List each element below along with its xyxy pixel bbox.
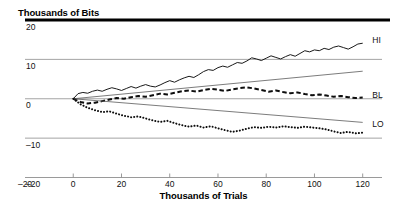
- y-tick-label-10: 10: [26, 61, 35, 71]
- x-tick-label-60: 60: [213, 179, 222, 189]
- chart-plot-area: [0, 0, 407, 212]
- x-tick-label-80: 80: [261, 179, 270, 189]
- y-tick-label-20: 20: [26, 22, 35, 32]
- series-label-lo: LO: [372, 119, 383, 129]
- series-line-lower-envelope: [73, 99, 362, 123]
- x-tick-label-120: 120: [356, 179, 370, 189]
- y-tick-label--10: –10: [26, 140, 40, 150]
- x-tick-label-40: 40: [165, 179, 174, 189]
- x-tick-marks-group: [73, 174, 362, 178]
- series-line-BL: [73, 87, 362, 103]
- gridlines-group: [25, 20, 390, 178]
- x-tick-label-100: 100: [307, 179, 321, 189]
- x-tick-label-20: 20: [117, 179, 126, 189]
- x-tick-label--20: –20: [18, 179, 32, 189]
- series-line-LO: [73, 99, 362, 134]
- data-series-group: [73, 43, 362, 133]
- y-tick-label-0: 0: [26, 100, 31, 110]
- series-label-hi: HI: [372, 35, 381, 45]
- series-line-HI: [73, 43, 362, 99]
- x-axis-caption: Thousands of Trials: [0, 190, 407, 201]
- chart-figure: Thousands of Bits 20100–10–20 –200204060…: [0, 0, 407, 212]
- x-tick-label-0: 0: [71, 179, 76, 189]
- series-label-bl: BL: [372, 90, 382, 100]
